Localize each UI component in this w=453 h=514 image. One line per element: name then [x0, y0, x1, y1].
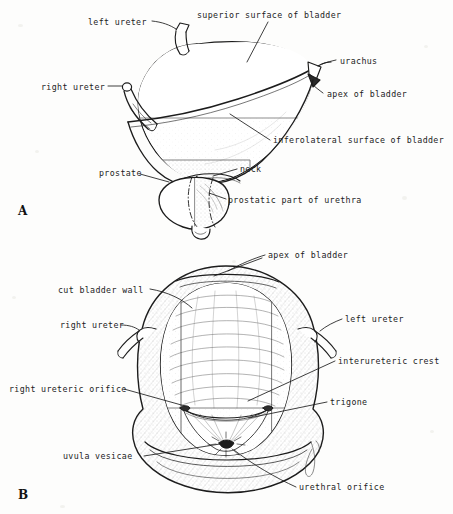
label-cut-bladder-wall-b: cut bladder wall [58, 286, 144, 294]
label-right-ureteric-orifice-b: right ureteric orifice [9, 385, 127, 393]
label-urethral-orifice-b: urethral orifice [299, 483, 385, 491]
leader-urachus [322, 60, 336, 64]
leader-prostate [140, 174, 169, 182]
leader-apex-bladder [312, 84, 323, 93]
leader-left-ureter [152, 21, 176, 29]
label-inferolateral-a: inferolateral surface of bladder [273, 136, 444, 144]
label-left-ureter-b: left ureter [345, 315, 404, 323]
panel-b-drawing [118, 260, 337, 500]
label-apex-of-bladder-a: apex of bladder [327, 90, 407, 98]
anatomy-figure: left ureter superior surface of bladder … [0, 0, 453, 514]
figure-artwork [0, 0, 453, 514]
label-trigone-b: trigone [330, 398, 367, 406]
panel-letter-a: A [18, 205, 27, 217]
label-left-ureter-a: left ureter [88, 18, 147, 26]
label-interureteric-crest-b: interureteric crest [338, 357, 440, 365]
label-neck-a: neck [240, 165, 261, 173]
panel-a-drawing [122, 23, 331, 239]
label-right-ureter-a: right ureter [41, 83, 105, 91]
label-urachus-a: urachus [340, 57, 377, 65]
leader-left-ureter-b [320, 319, 342, 331]
label-superior-surface-a: superior surface of bladder [197, 11, 341, 19]
label-prostatic-urethra-a: prostatic part of urethra [228, 196, 362, 204]
label-right-ureter-b: right ureter [60, 321, 124, 329]
label-prostate-a: prostate [99, 169, 142, 177]
urachus-stem-a [318, 62, 331, 66]
panel-letter-b: B [18, 489, 28, 501]
label-apex-of-bladder-b: apex of bladder [268, 251, 348, 259]
label-uvula-vesicae-b: uvula vesicae [63, 452, 133, 460]
